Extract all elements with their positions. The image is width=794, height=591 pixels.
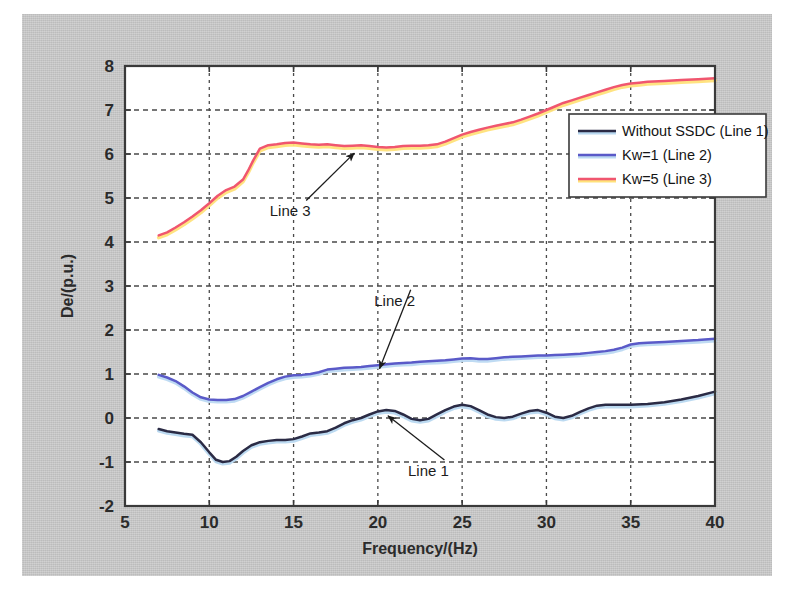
x-tick-label: 35 xyxy=(621,513,640,532)
chart-canvas: 510152025303540-2-1012345678 Line 1Line … xyxy=(0,0,794,591)
legend-label-1: Without SSDC (Line 1) xyxy=(622,123,769,139)
annotation-label-2: Line 2 xyxy=(374,292,415,309)
screenshot-root: 510152025303540-2-1012345678 Line 1Line … xyxy=(0,0,794,591)
y-tick-label: -1 xyxy=(99,453,114,472)
y-tick-label: 5 xyxy=(105,189,114,208)
y-axis-title: De/(p.u.) xyxy=(59,254,76,318)
legend-label-3: Kw=5 (Line 3) xyxy=(622,171,712,187)
x-tick-label: 10 xyxy=(200,513,219,532)
x-tick-label: 20 xyxy=(368,513,387,532)
chart-figure: 510152025303540-2-1012345678 Line 1Line … xyxy=(0,0,794,591)
x-tick-label: 40 xyxy=(706,513,725,532)
y-tick-label: 3 xyxy=(105,277,114,296)
x-tick-label: 5 xyxy=(120,513,129,532)
x-axis-title: Frequency/(Hz) xyxy=(362,540,478,557)
y-tick-label: 6 xyxy=(105,145,114,164)
y-tick-label: -2 xyxy=(99,497,114,516)
annotation-label-1: Line 1 xyxy=(408,462,449,479)
y-tick-label: 4 xyxy=(105,233,115,252)
legend: Without SSDC (Line 1)Kw=1 (Line 2)Kw=5 (… xyxy=(569,114,769,197)
y-tick-label: 2 xyxy=(105,321,114,340)
y-tick-label: 8 xyxy=(105,57,114,76)
x-tick-label: 25 xyxy=(453,513,472,532)
x-tick-label: 15 xyxy=(284,513,303,532)
y-tick-label: 0 xyxy=(105,409,114,428)
x-tick-label: 30 xyxy=(537,513,556,532)
y-tick-label: 7 xyxy=(105,101,114,120)
legend-label-2: Kw=1 (Line 2) xyxy=(622,147,712,163)
y-tick-label: 1 xyxy=(105,365,114,384)
annotation-label-3: Line 3 xyxy=(270,202,311,219)
